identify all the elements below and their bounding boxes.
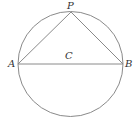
geometry-diagram: P A B C [0, 0, 137, 120]
label-A: A [8, 59, 15, 69]
label-C: C [65, 51, 73, 61]
label-P: P [67, 1, 74, 11]
chord-AP [18, 12, 71, 64]
label-B: B [125, 59, 132, 69]
chord-PB [71, 12, 123, 64]
